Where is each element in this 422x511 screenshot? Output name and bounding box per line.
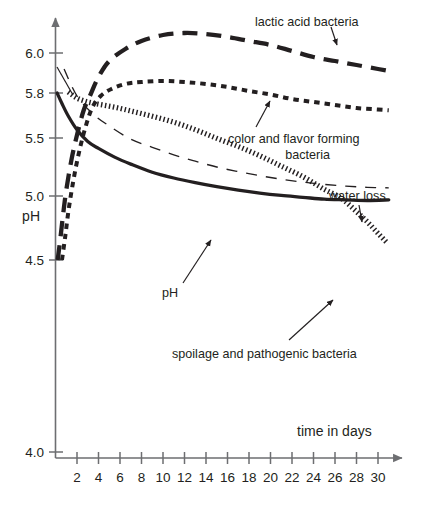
hatch-mark (378, 234, 382, 238)
hatch-mark (121, 106, 122, 111)
hatch-mark (194, 127, 196, 132)
hatch-mark (148, 113, 149, 118)
hatch-mark (373, 228, 377, 232)
hatch-mark (289, 168, 291, 173)
x-tick-label-16: 16 (220, 470, 235, 485)
hatch-mark (101, 102, 102, 107)
label-spoilage-pathogenic: spoilage and pathogenic bacteria (172, 347, 357, 361)
hatch-mark (317, 183, 320, 188)
hatch-mark (347, 203, 351, 207)
x-tick-label-6: 6 (116, 470, 124, 485)
hatch-mark (384, 239, 388, 243)
hatch-mark (144, 112, 145, 117)
label-water-loss: water loss (328, 189, 386, 203)
hatch-mark (117, 105, 118, 110)
x-tick-label-12: 12 (177, 470, 192, 485)
hatch-mark (156, 115, 157, 120)
hatch-mark (186, 124, 188, 129)
series-spoilage-pathogenic-bacteria (67, 90, 387, 243)
hatch-mark (293, 170, 295, 175)
hatch-mark (267, 158, 269, 163)
series-group (57, 33, 389, 260)
hatch-mark (275, 161, 277, 166)
hatch-mark (223, 139, 225, 144)
label-color-flavor-line2: bacteria (285, 148, 330, 162)
hatch-mark (271, 159, 273, 164)
hatch-mark (175, 120, 177, 125)
label-lactic-acid-bacteria: lactic acid bacteria (255, 15, 359, 29)
y-tick-label-4: 4.5 (25, 253, 44, 268)
hatch-mark (324, 187, 327, 192)
hatch-mark (307, 177, 310, 182)
hatch-mark (365, 219, 369, 223)
hatch-mark (179, 122, 181, 127)
y-axis-tick-labels: 6.0 5.8 5.5 5.0 4.5 4.0 (25, 46, 44, 460)
hatch-mark (249, 149, 251, 154)
hatch-mark (160, 116, 161, 121)
hatch-mark (356, 211, 360, 215)
hatch-mark (85, 99, 86, 104)
x-tick-label-18: 18 (241, 470, 256, 485)
x-tick-label-30: 30 (370, 470, 385, 485)
hatch-mark (260, 154, 262, 159)
y-tick-label-1: 5.8 (25, 86, 44, 101)
hatch-mark (78, 97, 80, 102)
leader-spoilage (289, 300, 333, 340)
hatch-mark (362, 216, 366, 220)
leader-lactic (331, 27, 337, 45)
x-tick-label-20: 20 (263, 470, 278, 485)
hatch-mark (381, 237, 385, 241)
hatch-mark (67, 90, 70, 94)
hatch-mark (216, 136, 218, 141)
hatch-mark (278, 163, 280, 168)
hatch-mark (140, 111, 141, 116)
hatch-mark (182, 123, 184, 128)
hatch-mark (105, 103, 106, 108)
x-tick-label-8: 8 (138, 470, 146, 485)
hatch-mark (208, 133, 210, 138)
hatch-mark (242, 146, 244, 151)
hatch-mark (167, 118, 168, 123)
hatch-mark (82, 98, 84, 103)
leader-ph (183, 240, 211, 283)
x-tick-label-14: 14 (198, 470, 214, 485)
hatch-mark (246, 148, 248, 153)
y-tick-label-5: 4.0 (25, 445, 44, 460)
hatch-mark (370, 225, 374, 229)
x-axis-title: time in days (297, 423, 372, 439)
hatch-mark (132, 109, 133, 114)
hatch-mark (113, 104, 114, 109)
x-tick-label-4: 4 (95, 470, 103, 485)
x-tick-label-22: 22 (284, 470, 299, 485)
x-tick-label-10: 10 (155, 470, 170, 485)
series-lactic-acid-bacteria (58, 33, 389, 260)
hatch-mark (367, 222, 371, 226)
hatch-mark (303, 175, 306, 180)
hatch-mark (253, 151, 255, 156)
hatch-mark (375, 231, 379, 235)
hatch-mark (300, 173, 302, 178)
hatch-mark (212, 134, 214, 139)
hatch-mark (201, 130, 203, 135)
x-tick-label-24: 24 (306, 470, 322, 485)
hatch-mark (205, 131, 207, 136)
chart-container: 6.0 5.8 5.5 5.0 4.5 4.0 pH 2468101214161… (0, 0, 422, 511)
hatch-mark (171, 119, 173, 124)
x-tick-label-26: 26 (327, 470, 342, 485)
leader-color-flavor (256, 101, 270, 127)
label-ph: pH (162, 286, 178, 300)
hatch-mark (163, 117, 164, 122)
hatch-mark (89, 100, 90, 105)
ph-spoilage-chart: 6.0 5.8 5.5 5.0 4.5 4.0 pH 2468101214161… (0, 0, 422, 511)
y-axis-title: pH (22, 208, 40, 224)
hatch-mark (190, 126, 192, 131)
hatch-mark (264, 156, 266, 161)
x-tick-label-2: 2 (73, 470, 81, 485)
series-ph (57, 93, 389, 200)
hatch-mark (350, 205, 354, 209)
hatch-mark (320, 186, 323, 191)
label-color-flavor-line1: color and flavor forming (228, 132, 360, 146)
hatch-mark (129, 108, 130, 113)
hatch-mark (257, 152, 259, 157)
x-tick-label-28: 28 (349, 470, 364, 485)
